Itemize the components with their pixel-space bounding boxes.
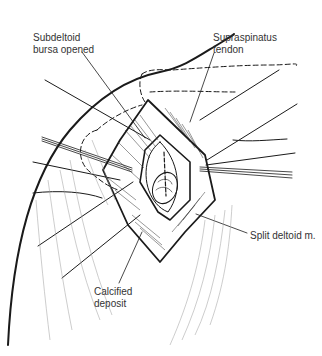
- label-subdeltoid-bursa: Subdeltoid bursa opened: [33, 32, 94, 56]
- label-calcified-line2: deposit: [94, 298, 132, 310]
- muscle-fiber-hatching: [36, 140, 232, 345]
- leader-supraspinatus: [190, 53, 214, 122]
- opened-bursa: [146, 142, 177, 212]
- retractor-right-lower: [206, 153, 295, 165]
- retractor-left-lower: [33, 182, 140, 278]
- label-supraspinatus-tendon: Supraspinatus tendon: [213, 32, 277, 56]
- retractor-left-upper: [33, 80, 150, 180]
- label-calcified-line1: Calcified: [94, 286, 132, 298]
- leader-calcified: [119, 232, 142, 283]
- label-subdeltoid-line1: Subdeltoid: [33, 32, 94, 44]
- retractor-right-upper: [200, 70, 297, 160]
- label-split-deltoid: Split deltoid m.: [250, 230, 316, 242]
- label-split-deltoid-line1: Split deltoid m.: [250, 230, 316, 242]
- label-supraspinatus-line2: tendon: [213, 44, 277, 56]
- label-subdeltoid-line2: bursa opened: [33, 44, 94, 56]
- leader-subdeltoid: [82, 52, 145, 138]
- label-supraspinatus-line1: Supraspinatus: [213, 32, 277, 44]
- label-calcified-deposit: Calcified deposit: [94, 286, 132, 310]
- forceps-right: [200, 167, 292, 178]
- supraspinatus-split-dashed: [164, 152, 166, 196]
- acromion-dashed-outline: [80, 130, 118, 190]
- surgical-illustration: Subdeltoid bursa opened Supraspinatus te…: [0, 0, 322, 356]
